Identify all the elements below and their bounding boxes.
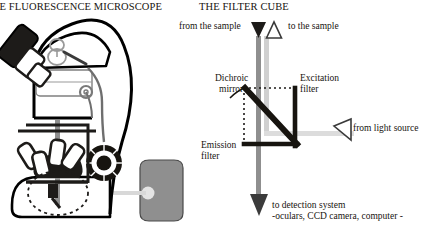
triangle-down-filled-icon-from-sample bbox=[251, 22, 266, 38]
triangle-up-outline-icon-to-sample bbox=[267, 22, 282, 38]
lamp-housing bbox=[140, 160, 183, 221]
label-excitation-filter-line1: Excitation bbox=[300, 73, 339, 84]
label-dichroic-mirror-line1: Dichroic bbox=[215, 73, 248, 84]
fluorescence-microscope-panel: IE FLUORESCENCE MICROSCOPE bbox=[0, 0, 200, 230]
triangle-down-filled-icon-detection bbox=[250, 194, 268, 216]
label-from-light-source: from light source bbox=[353, 123, 418, 134]
label-dichroic-mirror-line2: mirror bbox=[219, 84, 243, 95]
label-to-detection-system-line1: to detection system bbox=[272, 200, 345, 211]
label-emission-filter-line2: filter bbox=[201, 151, 219, 162]
filter-cube-panel: THE FILTER CUBE bbox=[200, 0, 424, 230]
focus-knob bbox=[86, 145, 122, 181]
label-excitation-filter-line2: filter bbox=[300, 84, 318, 95]
emission-beam-path bbox=[256, 36, 261, 196]
objective-turret bbox=[16, 139, 86, 178]
filter-cube-diagram bbox=[200, 0, 424, 230]
label-to-detection-system-line2: -oculars, CCD camera, computer - bbox=[272, 211, 403, 222]
label-emission-filter-line1: Emission bbox=[201, 140, 236, 151]
microscope-illustration bbox=[0, 0, 200, 230]
label-to-the-sample: to the sample bbox=[288, 21, 339, 32]
triangle-left-outline-icon-light-source bbox=[334, 119, 351, 140]
label-from-the-sample: from the sample bbox=[179, 21, 241, 32]
